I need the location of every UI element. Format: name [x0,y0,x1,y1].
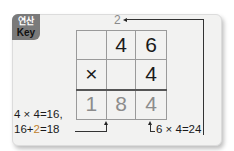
badge-korean-label: 연산 [12,16,40,27]
left-pointer-arrow-icon [104,121,108,125]
left-note-part-b: =18 [40,123,60,135]
grid-cell [107,60,137,89]
right-pointer-line-h [150,131,155,132]
carry-digit: 2 [114,13,121,27]
grid-cell-answer: 8 [107,90,137,119]
grid-cell: 4 [136,60,166,89]
key-badge: 연산 Key [12,14,40,40]
grid-cell [77,31,107,60]
left-pointer-line-v [106,124,107,132]
grid-cell: 6 [136,31,166,60]
carry-line-top [126,19,203,20]
grid-cell-operator: × [77,60,107,89]
right-note: 6 × 4=24 [156,123,201,135]
carry-line-right [203,19,204,135]
result-separator [76,89,167,91]
left-note-part-a: 16+ [14,123,34,135]
grid-cell: 4 [107,31,137,60]
grid-cell-answer: 4 [136,90,166,119]
badge-english-label: Key [12,27,40,38]
left-pointer-line-h [75,131,107,132]
multiplication-grid: 4 6 × 4 1 8 4 [76,30,167,120]
grid-cell-answer: 1 [77,90,107,119]
left-note-line2: 16+2=18 [14,123,59,135]
left-note-line1: 4 × 4=16, [14,108,63,120]
